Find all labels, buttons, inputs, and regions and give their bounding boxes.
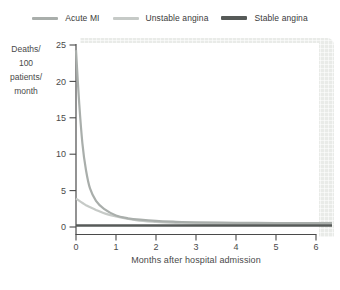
x-axis-tick-label: 2 [153, 242, 158, 252]
curve-unstable-angina [76, 199, 332, 225]
x-axis-tick-label: 1 [113, 242, 118, 252]
curve-acute-mi [76, 50, 332, 223]
x-axis-tick-label: 5 [273, 242, 278, 252]
x-axis-tick-label: 3 [193, 242, 198, 252]
x-axis-tick-label: 0 [73, 242, 78, 252]
y-axis-tick-label: 5 [61, 186, 66, 196]
x-axis-tick-label: 4 [233, 242, 238, 252]
y-axis-tick-label: 15 [56, 113, 66, 123]
survival-curve-chart: 25201510500123456 [0, 0, 340, 290]
y-axis-tick-label: 20 [56, 77, 66, 87]
y-axis-tick-label: 10 [56, 149, 66, 159]
y-axis-tick-label: 0 [61, 222, 66, 232]
x-axis-tick-label: 6 [313, 242, 318, 252]
y-axis-tick-label: 25 [56, 40, 66, 50]
x-axis-title: Months after hospital admission [76, 255, 316, 265]
